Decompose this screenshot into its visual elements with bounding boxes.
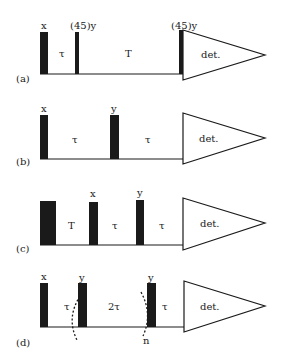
panel-d: x y y τ 2τ τ det. n (d) (16, 271, 265, 348)
pulse-label: x (41, 103, 47, 114)
panel-b: x y τ τ det. (b) (16, 103, 265, 167)
delay-label: τ (159, 220, 165, 231)
delay-label: τ (59, 48, 65, 59)
detection-label: det. (201, 49, 221, 60)
pulse-y (136, 200, 144, 245)
detection-label: det. (200, 301, 220, 312)
pulse-label: x (41, 271, 47, 282)
delay-label: T (125, 48, 132, 59)
pulse-label: (45)y (171, 20, 198, 31)
panel-a: x (45)y (45)y τ T det. (a) (16, 20, 265, 84)
delay-label: τ (72, 134, 78, 145)
detection-triangle (183, 30, 265, 80)
pulse-y (110, 115, 119, 159)
panel-label: (d) (16, 337, 30, 348)
pulse-x (40, 115, 48, 159)
pulse-label: y (147, 272, 154, 283)
pulse-x (40, 283, 48, 327)
detection-triangle (183, 113, 265, 164)
pulse-label: y (136, 187, 143, 198)
panel-label: (b) (16, 156, 30, 167)
pulse-x (89, 202, 98, 245)
pulse-saturation (40, 201, 56, 245)
panel-label: (c) (16, 243, 30, 254)
pulse-label: y (78, 272, 85, 283)
delay-label: 2τ (108, 301, 120, 312)
pulse-sequence-diagram: x (45)y (45)y τ T det. (a) x y τ τ det. … (0, 0, 281, 362)
delay-label: T (68, 220, 75, 231)
delay-label: τ (112, 220, 118, 231)
detection-triangle (184, 281, 265, 332)
detection-triangle (183, 198, 265, 250)
panel-label: (a) (16, 73, 30, 84)
detection-label: det. (200, 218, 220, 229)
delay-label: τ (162, 301, 168, 312)
pulse-label: y (110, 103, 117, 114)
delay-label: τ (145, 134, 151, 145)
pulse-label: (45)y (70, 20, 97, 31)
pulse-y-2 (147, 283, 156, 327)
loop-end-bracket (141, 292, 148, 336)
pulse-label: x (90, 188, 96, 199)
pulse-x (40, 32, 48, 74)
pulse-45y (75, 32, 79, 74)
pulse-y (78, 283, 87, 327)
pulse-label: x (41, 20, 47, 31)
detection-label: det. (199, 133, 219, 144)
panel-c: x y T τ τ det. (c) (16, 187, 265, 254)
delay-label: τ (64, 301, 70, 312)
loop-count-label: n (143, 335, 150, 346)
